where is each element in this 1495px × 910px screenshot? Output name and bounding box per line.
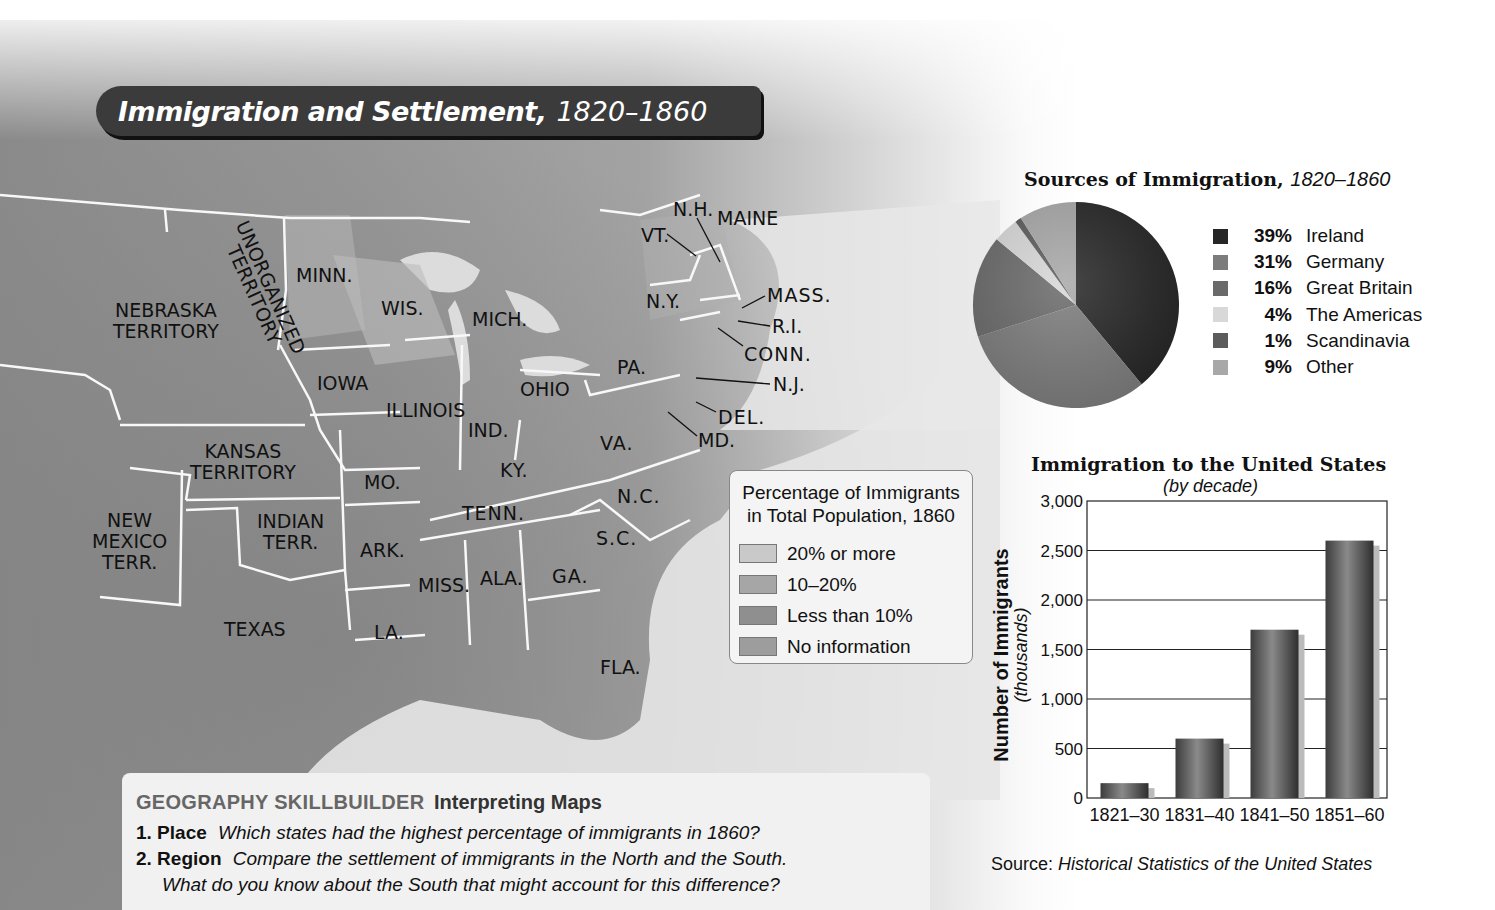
source-citation: Source: Historical Statistics of the Uni… — [991, 854, 1372, 875]
svg-text:1851–60: 1851–60 — [1314, 805, 1384, 825]
svg-text:1831–40: 1831–40 — [1164, 805, 1234, 825]
bar-1851–60 — [1326, 541, 1374, 798]
bar-1831–40 — [1176, 739, 1224, 798]
svg-text:1,500: 1,500 — [1040, 641, 1083, 660]
svg-text:500: 500 — [1055, 740, 1083, 759]
svg-text:1821–30: 1821–30 — [1089, 805, 1159, 825]
svg-text:2,500: 2,500 — [1040, 542, 1083, 561]
svg-text:1841–50: 1841–50 — [1239, 805, 1309, 825]
svg-text:0: 0 — [1074, 789, 1083, 808]
bar-chart: 05001,0001,5002,0002,5003,000 1821–30183… — [0, 0, 1495, 910]
svg-text:3,000: 3,000 — [1040, 492, 1083, 511]
bar-1841–50 — [1251, 630, 1299, 798]
svg-text:2,000: 2,000 — [1040, 591, 1083, 610]
bar-1821–30 — [1101, 783, 1149, 798]
svg-text:1,000: 1,000 — [1040, 690, 1083, 709]
